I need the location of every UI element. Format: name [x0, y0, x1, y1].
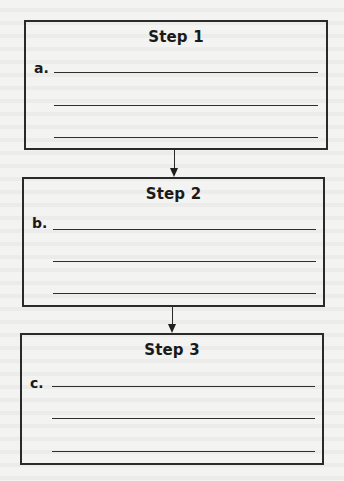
- step-3-box: Step 3 c.: [20, 333, 324, 465]
- step-3-answer-line-3[interactable]: [52, 451, 315, 452]
- arrow-down-icon: [168, 324, 176, 333]
- arrow-down-icon: [170, 168, 178, 177]
- step-3-answer-line-1[interactable]: [52, 386, 315, 387]
- step-1-answer-line-3[interactable]: [54, 137, 318, 138]
- connector-step2-to-step3: [172, 307, 173, 324]
- step-3-title: Step 3: [22, 341, 322, 359]
- step-2-box: Step 2 b.: [22, 177, 325, 307]
- step-1-answer-line-2[interactable]: [54, 105, 318, 106]
- step-1-answer-line-1[interactable]: [54, 72, 318, 73]
- step-1-box: Step 1 a.: [24, 20, 328, 150]
- step-1-title: Step 1: [26, 28, 326, 46]
- step-3-answer-line-2[interactable]: [52, 418, 315, 419]
- step-2-title: Step 2: [24, 185, 323, 203]
- step-2-answer-line-1[interactable]: [53, 229, 316, 230]
- step-2-answer-line-2[interactable]: [53, 261, 316, 262]
- step-2-label: b.: [32, 215, 47, 231]
- step-1-label: a.: [34, 60, 49, 76]
- step-2-answer-line-3[interactable]: [53, 293, 316, 294]
- step-3-label: c.: [30, 375, 44, 391]
- connector-step1-to-step2: [174, 150, 175, 168]
